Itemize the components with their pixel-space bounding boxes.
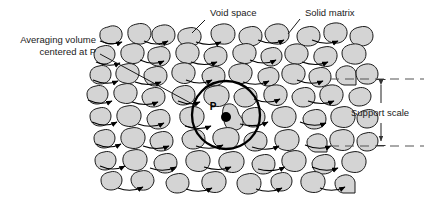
support-scale-label: Support scale: [351, 107, 409, 118]
averaging-volume-label-line2: centered at P: [39, 46, 96, 57]
point-p-label: P: [210, 101, 217, 112]
averaging-volume-label-line1: Averaging volume: [20, 34, 96, 45]
center-point-marker: [221, 112, 231, 122]
solid-matrix-label: Solid matrix: [305, 7, 355, 18]
porous-medium-diagram: Support scale P Void space Solid matrix …: [0, 0, 439, 213]
solid-matrix-grains: [87, 23, 378, 194]
void-space-label: Void space: [210, 7, 256, 18]
